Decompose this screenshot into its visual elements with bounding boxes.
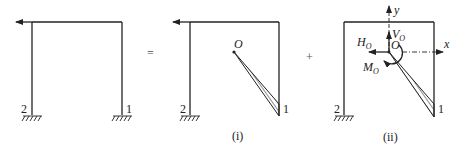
caption-ii: (ii) [383, 130, 398, 144]
fixed-support-icon [112, 116, 132, 121]
frame-superposition-diagram: 2 1 = O 2 1 (i) + [0, 0, 466, 149]
point-o-label: O [234, 37, 243, 51]
node-label-1: 1 [438, 102, 444, 116]
frame-part-ii: y x VO HO MO O 2 1 (ii) [334, 3, 450, 144]
node-label-2: 2 [180, 102, 186, 116]
plus-sign: + [306, 50, 313, 64]
frame-part-i: O 2 1 (i) [173, 22, 289, 143]
node-label-1: 1 [126, 102, 132, 116]
fixed-support-icon [22, 116, 42, 121]
rigid-arm-hatched [234, 52, 279, 116]
node-label-2: 2 [21, 102, 27, 116]
fixed-support-icon [180, 116, 200, 121]
m-moment-label: MO [362, 60, 379, 76]
frame-original: 2 1 [16, 22, 132, 121]
y-axis-label: y [393, 3, 400, 17]
caption-i: (i) [232, 129, 243, 143]
node-label-1: 1 [283, 102, 289, 116]
equals-sign: = [147, 46, 154, 60]
fixed-support-icon [334, 116, 354, 121]
node-label-2: 2 [334, 102, 340, 116]
rigid-arm-hatched [389, 52, 434, 117]
point-o-label: O [391, 38, 400, 52]
h-force-label: HO [356, 35, 372, 51]
x-axis-label: x [443, 37, 450, 51]
